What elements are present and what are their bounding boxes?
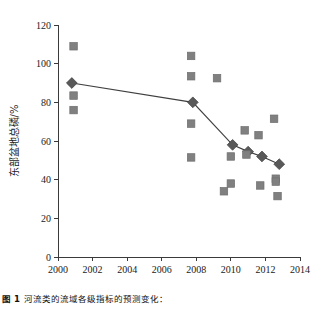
data-point-square	[243, 151, 251, 159]
x-tick-label: 2000	[48, 264, 68, 275]
data-point-square	[187, 52, 195, 60]
x-tick-label: 2010	[221, 264, 241, 275]
chart-plot-area: 0204060801001202000200220042006200820102…	[0, 0, 318, 278]
x-tick-label: 2006	[152, 264, 172, 275]
data-point-square	[270, 115, 278, 123]
figure: 0204060801001202000200220042006200820102…	[0, 0, 318, 309]
y-axis-title: 东部盆地总磷/%	[8, 105, 20, 178]
x-tick-label: 2002	[83, 264, 103, 275]
y-tick-label: 100	[36, 58, 51, 69]
data-point-diamond	[257, 151, 268, 162]
data-point-square	[241, 127, 249, 134]
y-tick-label: 0	[46, 252, 51, 263]
data-point-square	[70, 43, 78, 51]
x-tick-label: 2004	[117, 264, 137, 275]
data-point-square	[187, 154, 195, 162]
caption-text: 河流类的流域各级指标的预测变化：	[24, 292, 168, 304]
x-tick-label: 2008	[186, 264, 206, 275]
x-tick-label: 2012	[255, 264, 275, 275]
data-point-square	[213, 74, 221, 82]
y-tick-label: 60	[41, 136, 51, 147]
data-point-square	[227, 153, 235, 161]
y-tick-label: 40	[41, 174, 51, 185]
scatter-chart: 0204060801001202000200220042006200820102…	[0, 0, 318, 278]
data-point-diamond	[274, 159, 285, 170]
data-point-square	[272, 178, 280, 186]
x-tick-label: 2014	[290, 264, 310, 275]
data-point-square	[187, 120, 195, 128]
caption-label: 图 1	[0, 292, 20, 304]
data-point-square	[70, 92, 78, 100]
data-point-square	[227, 180, 235, 188]
y-tick-label: 80	[41, 97, 51, 108]
y-tick-label: 120	[36, 20, 51, 31]
data-point-square	[220, 188, 228, 196]
figure-caption: 图 1 河流类的流域各级指标的预测变化：	[0, 292, 318, 309]
y-tick-label: 20	[41, 213, 51, 224]
data-point-square	[256, 182, 264, 190]
data-point-square	[70, 106, 78, 114]
data-point-square	[187, 72, 195, 80]
data-point-square	[274, 192, 282, 200]
data-point-diamond	[66, 78, 77, 89]
data-point-square	[255, 131, 263, 139]
